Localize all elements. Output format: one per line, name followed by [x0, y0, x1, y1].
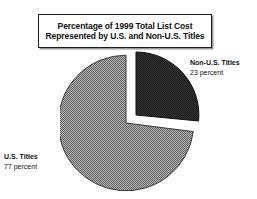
slice-label-non-us-value: 23 percent	[190, 68, 240, 78]
pie-graphic	[60, 50, 208, 198]
slice-label-us-value: 77 percent	[4, 162, 38, 172]
slice-label-non-us-name: Non-U.S. Titles	[190, 58, 240, 68]
pie-chart-figure: Percentage of 1999 Total List Cost Repre…	[0, 0, 257, 199]
slice-label-us-name: U.S. Titles	[4, 152, 38, 162]
slice-label-non-us-titles: Non-U.S. Titles 23 percent	[190, 58, 240, 78]
pie-svg	[60, 50, 208, 198]
chart-title-line-2: Represented by U.S. and Non-U.S. Titles	[46, 31, 205, 41]
chart-title-box: Percentage of 1999 Total List Cost Repre…	[38, 14, 212, 48]
slice-label-us-titles: U.S. Titles 77 percent	[4, 152, 38, 172]
chart-title-line-1: Percentage of 1999 Total List Cost	[58, 21, 193, 31]
